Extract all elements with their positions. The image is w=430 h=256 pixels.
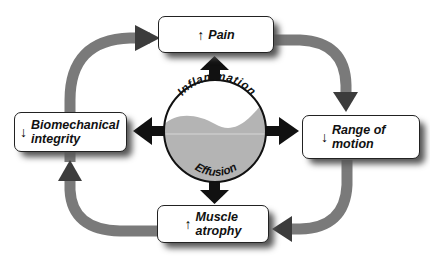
inflammation-label: Inflammation <box>175 70 259 98</box>
effusion-label: Effusion <box>193 161 238 178</box>
arrow-down-icon: ↓ <box>20 125 27 139</box>
node-label-line: Pain <box>208 28 234 42</box>
node-label-line: Muscle <box>196 210 238 224</box>
node-label-line: integrity <box>31 132 80 146</box>
node-label-line: motion <box>332 137 374 151</box>
svg-text:Effusion: Effusion <box>193 161 238 178</box>
node-range-of-motion: ↓ Range of motion <box>302 115 420 159</box>
arrow-down-icon: ↓ <box>321 130 328 144</box>
node-label: Biomechanical integrity <box>31 118 119 146</box>
node-biomechanical-integrity: ↓ Biomechanical integrity <box>14 112 127 152</box>
svg-text:Inflammation: Inflammation <box>175 70 259 98</box>
node-label: Muscle atrophy <box>196 210 242 238</box>
node-label-line: atrophy <box>196 224 242 238</box>
node-label: Range of motion <box>332 123 385 151</box>
arrow-up-icon: ↑ <box>197 28 204 42</box>
node-label: Pain <box>208 28 234 42</box>
arrow-up-icon: ↑ <box>185 217 192 231</box>
node-label-line: Range of <box>332 123 385 137</box>
node-pain: ↑ Pain <box>158 16 274 53</box>
node-muscle-atrophy: ↑ Muscle atrophy <box>157 205 269 243</box>
node-label-line: Biomechanical <box>31 118 119 132</box>
